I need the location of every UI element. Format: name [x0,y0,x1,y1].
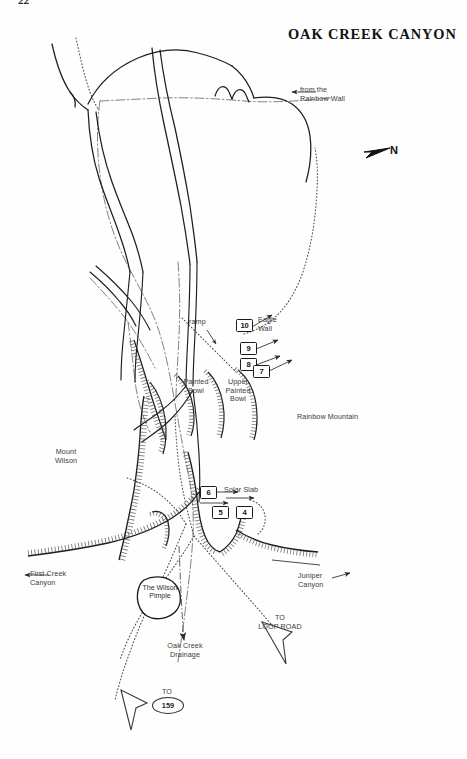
label-painted-bowl: Painted Bowl [178,378,214,395]
ridge-lines [52,44,311,272]
arrow-ramp [207,330,216,344]
trail-north-spur [76,38,99,110]
label-upper-painted-bowl: Upper Painted Bowl [218,378,258,404]
label-ramp: ramp [189,318,206,327]
arrow-to-159 [121,690,147,730]
label-wilson-pimple: The Wilson Pimple [141,584,179,600]
route-marker-10[interactable]: 10 [236,319,253,332]
compass-label: N [390,144,398,156]
north-arrow-icon [364,148,390,158]
arrow-route-8 [256,356,280,365]
label-juniper-canyon: Juniper Canyon [298,572,323,589]
drainage-upper-east [100,98,330,102]
label-first-creek-canyon: First Creek Canyon [30,570,66,587]
approach-trails [76,38,317,700]
route-shield-159: 159 [152,697,184,714]
arrow-route-9 [256,340,278,349]
line-juniper-lead [272,560,320,565]
cliff-band-juniper [236,530,318,555]
label-from-rainbow-wall: from the Rainbow Wall [300,86,345,103]
cliff-band-small-hook [150,511,169,548]
route-marker-5[interactable]: 5 [212,506,229,519]
route-marker-9[interactable]: 9 [240,342,257,355]
arrow-route-7 [269,360,292,371]
cliff-band-solar-slab-west [185,452,220,552]
label-eagle-wall: Eagle Wall [258,316,277,333]
route-marker-6[interactable]: 6 [200,486,217,499]
label-rainbow-mountain: Rainbow Mountain [297,413,358,422]
route-marker-7[interactable]: 7 [253,365,270,378]
label-solar-slab: Solar Slab [224,486,258,495]
cliff-band-west-wilson [28,489,199,556]
trail-wilson-traverse [127,478,186,524]
route-marker-4[interactable]: 4 [236,506,253,519]
trail-east-rim [244,148,317,334]
label-to-loop-road: TO LOOP ROAD [258,614,302,631]
label-to-159: TO [157,688,177,697]
arrow-juniper-canyon [332,573,350,578]
label-mount-wilson: Mount Wilson [44,448,88,465]
map-page: 22 OAK CREEK CANYON [0,0,467,759]
label-oak-creek-drainage: Oak Creek Drainage [156,642,214,659]
